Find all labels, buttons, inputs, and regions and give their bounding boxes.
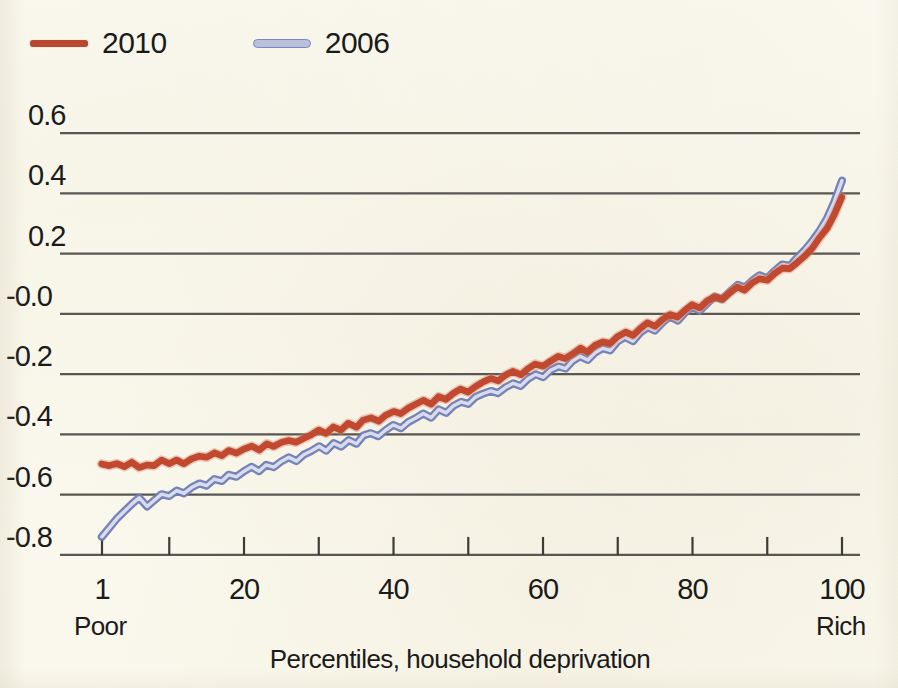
- series-line-2010: [102, 197, 842, 467]
- y-axis-tick-label: -0.0: [6, 282, 52, 311]
- series-line-2010-halo: [102, 197, 842, 467]
- y-axis-tick-label: -0.8: [6, 523, 52, 552]
- legend-label-2006: 2006: [325, 28, 390, 58]
- legend-entry-2006: 2006: [253, 28, 390, 58]
- y-axis-tick-label: -0.6: [6, 463, 52, 492]
- x-axis-tick-label: 80: [677, 575, 707, 604]
- x-axis-tick-label: 40: [378, 575, 408, 604]
- line-swatch-red-icon: [30, 40, 88, 47]
- figure-canvas: 2010 2006 0.60.40.2-0.0-0.2-0.4-0.6-0.8 …: [0, 0, 898, 688]
- legend-entry-2010: 2010: [30, 28, 167, 58]
- chart-legend: 2010 2006: [30, 26, 390, 60]
- x-axis-tick-label: 1: [94, 575, 109, 604]
- legend-label-2010: 2010: [102, 28, 167, 58]
- y-axis-tick-label: 0.2: [28, 222, 65, 251]
- x-axis-tick-label: 60: [528, 575, 558, 604]
- line-swatch-blue-icon: [253, 39, 311, 48]
- plot-area: [60, 118, 860, 570]
- x-axis-tick-label: 100: [819, 575, 864, 604]
- y-axis-tick-label: 0.4: [28, 161, 65, 190]
- x-axis-right-end-label: Rich: [816, 613, 866, 639]
- chart-svg: [60, 118, 860, 570]
- series-line-2006-outline: [102, 181, 842, 537]
- y-axis-tick-label: -0.2: [6, 342, 52, 371]
- x-axis-left-end-label: Poor: [74, 613, 127, 639]
- x-axis-tick-label: 20: [229, 575, 259, 604]
- x-axis-title: Percentiles, household deprivation: [60, 646, 860, 672]
- y-axis-tick-label: 0.6: [28, 101, 65, 130]
- y-axis-tick-label: -0.4: [6, 402, 52, 431]
